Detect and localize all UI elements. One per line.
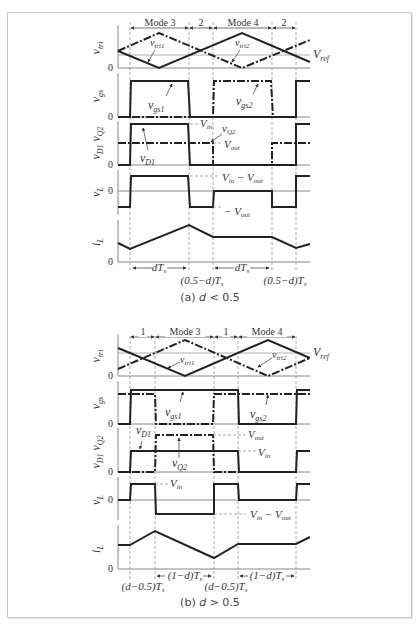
- svg-text:Vin: Vin: [200, 117, 213, 131]
- svg-text:(0.5−d)Ts: (0.5−d)Ts: [264, 274, 307, 288]
- svg-text:0: 0: [108, 494, 113, 505]
- svg-text:Vin: Vin: [170, 477, 183, 491]
- svg-text:dTs: dTs: [235, 261, 250, 275]
- caption-b: (b) d > 0.5: [180, 596, 240, 609]
- intervals-a: dTs (0.5−d)Ts dTs (0.5−d)Ts: [133, 261, 307, 288]
- svg-text:(1−d)Ts: (1−d)Ts: [250, 569, 285, 583]
- mode-label: Mode 4: [228, 17, 259, 28]
- svg-text:Mode 3: Mode 3: [170, 326, 201, 337]
- svg-text:0: 0: [108, 418, 113, 429]
- svg-text:vtri: vtri: [89, 42, 105, 55]
- svg-text:0: 0: [108, 256, 113, 267]
- svg-text:vtri2: vtri2: [235, 37, 250, 50]
- caption-a: (a) d < 0.5: [180, 291, 240, 304]
- svg-text:Vout: Vout: [224, 138, 241, 152]
- svg-text:vtri1: vtri1: [150, 37, 165, 50]
- svg-text:0: 0: [108, 62, 113, 73]
- svg-text:vgs2: vgs2: [250, 407, 266, 423]
- svg-text:vtri1: vtri1: [180, 354, 195, 367]
- svg-text:(0.5−d)Ts: (0.5−d)Ts: [181, 274, 224, 288]
- svg-text:vL: vL: [89, 495, 105, 505]
- svg-text:Mode 4: Mode 4: [252, 326, 283, 337]
- svg-text:(d−0.5)Ts: (d−0.5)Ts: [122, 580, 165, 594]
- svg-text:0: 0: [108, 111, 113, 122]
- y-labels-b: vtri vgs vD1 vQ2 vL iL 0 0 0 0 0: [89, 350, 113, 574]
- svg-text:vD1 vQ2: vD1 vQ2: [89, 126, 105, 159]
- svg-text:vgs: vgs: [89, 397, 105, 409]
- svg-text:0: 0: [108, 370, 113, 381]
- vgs2-wave: [118, 81, 296, 117]
- svg-text:0: 0: [108, 466, 113, 477]
- waveform-diagram: Mode 3 2 Mode 4 2 vtri vgs vD1 vQ2 vL iL: [0, 0, 420, 627]
- svg-text:vD1: vD1: [136, 423, 151, 439]
- svg-text:vgs1: vgs1: [165, 405, 181, 421]
- svg-text:iL: iL: [89, 238, 105, 246]
- svg-text:vD1 vQ2: vD1 vQ2: [89, 435, 105, 468]
- svg-text:vD1: vD1: [140, 151, 155, 167]
- svg-text:vQ2: vQ2: [172, 456, 187, 472]
- svg-text:vL: vL: [89, 187, 105, 197]
- svg-text:(1−d)Ts: (1−d)Ts: [168, 569, 203, 583]
- svg-text:− Vout: − Vout: [224, 205, 251, 219]
- svg-text:vgs2: vgs2: [236, 94, 252, 110]
- svg-text:0: 0: [108, 563, 113, 574]
- svg-text:vtri2: vtri2: [272, 349, 287, 362]
- svg-text:1: 1: [224, 326, 229, 337]
- svg-text:dTs: dTs: [152, 261, 167, 275]
- svg-text:vQ2: vQ2: [222, 122, 236, 136]
- intervals-b: (d−0.5)Ts (1−d)Ts (d−0.5)Ts (1−d)Ts: [122, 569, 294, 594]
- svg-text:(d−0.5)Ts: (d−0.5)Ts: [205, 580, 248, 594]
- svg-text:Vout: Vout: [248, 428, 265, 442]
- figure-a: Mode 3 2 Mode 4 2 vtri vgs vD1 vQ2 vL iL: [89, 17, 331, 304]
- il-wave: [118, 225, 310, 249]
- svg-text:0: 0: [108, 159, 113, 170]
- mode-label: Mode 3: [145, 17, 176, 28]
- svg-text:vgs1: vgs1: [148, 98, 164, 114]
- svg-text:Vref: Vref: [313, 47, 331, 63]
- mode-label: 2: [199, 17, 204, 28]
- svg-text:Vin − Vout: Vin − Vout: [222, 171, 264, 185]
- y-labels-a: vtri vgs vD1 vQ2 vL iL 0 0 0 0 0: [89, 42, 113, 267]
- svg-text:vgs: vgs: [89, 90, 105, 102]
- svg-text:Vin − Vout: Vin − Vout: [250, 508, 292, 522]
- svg-text:Vref: Vref: [313, 345, 331, 361]
- mode-label: 2: [282, 17, 287, 28]
- svg-text:Vin: Vin: [258, 446, 271, 460]
- svg-text:1: 1: [141, 326, 146, 337]
- figure-b: 1 Mode 3 1 Mode 4 vtri vgs vD1 vQ2 vL iL…: [89, 326, 331, 609]
- svg-text:0: 0: [108, 185, 113, 196]
- svg-text:vtri: vtri: [89, 350, 105, 363]
- svg-text:iL: iL: [89, 545, 105, 553]
- mode-header-b: 1 Mode 3 1 Mode 4: [131, 326, 295, 337]
